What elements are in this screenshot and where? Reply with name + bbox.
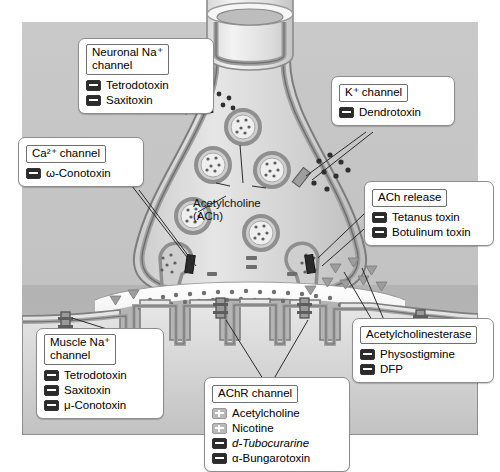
- callout-title: ACh release: [372, 189, 447, 207]
- inhibitor-icon: [212, 438, 227, 449]
- callout-item: Tetrodotoxin: [44, 369, 156, 382]
- callout-item: Tetrodotoxin: [86, 79, 206, 92]
- drug-label: Tetanus toxin: [392, 211, 460, 224]
- callout-item: Dendrotoxin: [339, 106, 447, 119]
- callout-title: AChR channel: [212, 385, 298, 403]
- drug-label: Tetrodotoxin: [106, 79, 169, 92]
- callout-acetylcholinesterase[interactable]: Acetylcholinesterase Physostigmine DFP: [352, 318, 494, 383]
- inhibitor-icon: [212, 453, 227, 464]
- callout-items: Tetrodotoxin Saxitoxin μ-Conotoxin: [44, 369, 156, 412]
- inhibitor-icon: [360, 364, 375, 375]
- callout-item: Nicotine: [212, 422, 342, 435]
- callout-item: d-Tubocurarine: [212, 437, 342, 450]
- callout-title: Muscle Na⁺ channel: [44, 334, 116, 365]
- drug-label: d-Tubocurarine: [232, 437, 309, 450]
- callout-ca-channel[interactable]: Ca²⁺ channel ω-Conotoxin: [18, 137, 144, 187]
- inhibitor-icon: [372, 212, 387, 223]
- callout-k-channel[interactable]: K⁺ channel Dendrotoxin: [331, 76, 455, 126]
- callout-items: Dendrotoxin: [339, 106, 447, 119]
- callout-title: Ca²⁺ channel: [26, 145, 106, 163]
- drug-label: α-Bungarotoxin: [232, 452, 310, 465]
- drug-label: ω-Conotoxin: [46, 167, 111, 180]
- drug-label: Botulinum toxin: [392, 226, 471, 239]
- callout-item: Physostigmine: [360, 348, 486, 361]
- acetylcholine-line2: (ACh): [193, 210, 261, 223]
- callout-achr-channel[interactable]: AChR channel Acetylcholine Nicotine d-Tu…: [204, 377, 350, 472]
- callout-items: Physostigmine DFP: [360, 348, 486, 376]
- drug-label: DFP: [380, 363, 403, 376]
- acetylcholine-line1: Acetylcholine: [193, 197, 261, 210]
- inhibitor-icon: [44, 385, 59, 396]
- callout-title: K⁺ channel: [339, 84, 408, 102]
- inhibitor-icon: [372, 227, 387, 238]
- inhibitor-icon: [339, 107, 354, 118]
- inhibitor-icon: [44, 400, 59, 411]
- agonist-icon: [212, 423, 227, 434]
- inhibitor-icon: [86, 80, 101, 91]
- inhibitor-icon: [86, 95, 101, 106]
- callout-items: Acetylcholine Nicotine d-Tubocurarine α-…: [212, 407, 342, 465]
- callout-items: Tetanus toxin Botulinum toxin: [372, 211, 486, 239]
- drug-label: Tetrodotoxin: [64, 369, 127, 382]
- callout-item: Saxitoxin: [44, 384, 156, 397]
- drug-label: Acetylcholine: [232, 407, 300, 420]
- callout-items: Tetrodotoxin Saxitoxin: [86, 79, 206, 107]
- callout-items: ω-Conotoxin: [26, 167, 136, 180]
- callout-neuronal-na-channel[interactable]: Neuronal Na⁺ channel Tetrodotoxin Saxito…: [78, 38, 214, 114]
- callout-ach-release[interactable]: ACh release Tetanus toxin Botulinum toxi…: [364, 181, 494, 246]
- callout-item: α-Bungarotoxin: [212, 452, 342, 465]
- callout-item: Botulinum toxin: [372, 226, 486, 239]
- drug-label: μ-Conotoxin: [64, 399, 126, 412]
- callout-item: DFP: [360, 363, 486, 376]
- acetylcholine-center-label: Acetylcholine (ACh): [193, 197, 261, 223]
- callout-item: Acetylcholine: [212, 407, 342, 420]
- drug-label: Physostigmine: [380, 348, 455, 361]
- axon-shaft: [207, 0, 293, 70]
- callout-title: Neuronal Na⁺ channel: [86, 44, 169, 75]
- inhibitor-icon: [26, 168, 41, 179]
- callout-item: ω-Conotoxin: [26, 167, 136, 180]
- drug-label: Dendrotoxin: [359, 106, 421, 119]
- callout-muscle-na-channel[interactable]: Muscle Na⁺ channel Tetrodotoxin Saxitoxi…: [36, 328, 164, 419]
- agonist-icon: [212, 408, 227, 419]
- inhibitor-icon: [360, 349, 375, 360]
- inhibitor-icon: [44, 370, 59, 381]
- drug-label: Saxitoxin: [106, 94, 153, 107]
- drug-label: Saxitoxin: [64, 384, 111, 397]
- callout-item: Tetanus toxin: [372, 211, 486, 224]
- callout-item: Saxitoxin: [86, 94, 206, 107]
- drug-label: Nicotine: [232, 422, 274, 435]
- callout-item: μ-Conotoxin: [44, 399, 156, 412]
- callout-title: Acetylcholinesterase: [360, 326, 477, 344]
